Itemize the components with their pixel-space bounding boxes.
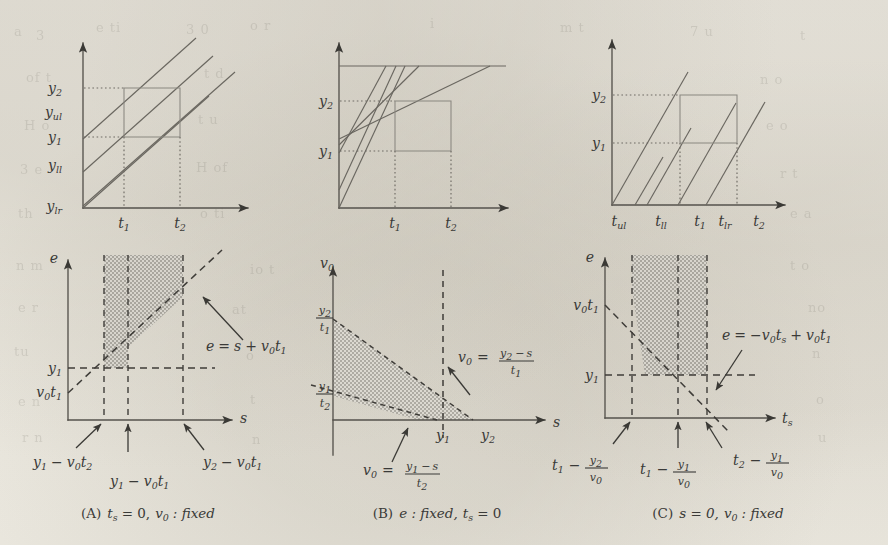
- top-middle-y-ticks: y2 y1: [318, 93, 333, 161]
- x-annot-arrow-1-A: [76, 424, 101, 448]
- panel-top-middle: y2 y1 t1 t2: [318, 43, 508, 233]
- x-annot-arrow-3-C: [706, 422, 722, 448]
- svg-text:y1: y1: [318, 380, 331, 395]
- top-middle-x-ticks: t1 t2: [389, 215, 457, 233]
- svg-text:v0: v0: [678, 475, 690, 490]
- tick-y1-C: y1: [584, 367, 599, 385]
- svg-text:t1−: t1−: [552, 457, 580, 475]
- svg-text:v0: v0: [590, 471, 602, 486]
- callout-arrow-lower-B: [392, 428, 408, 462]
- svg-text:t2: t2: [417, 477, 427, 492]
- tick-v0t1-C: v0t1: [573, 297, 599, 315]
- caption-A: (A)ts= 0,v0: fixed: [81, 505, 215, 523]
- tick-y1-B: y1: [435, 427, 450, 445]
- tick-tll: tll: [655, 213, 667, 231]
- equation-upper-B: v0= y2−s t1: [458, 347, 534, 379]
- bottom-left-x-axis-label: s: [240, 410, 247, 426]
- tick-y2: y2: [318, 93, 333, 111]
- tick-y1-over-t2-B: y1 t2: [316, 380, 333, 412]
- tick-tlr: tlr: [718, 213, 733, 231]
- top-right-guides: [613, 95, 737, 205]
- bottom-left-y-axis-label: e: [50, 250, 58, 266]
- svg-text:y1: y1: [770, 449, 783, 464]
- caption-C: (C)s = 0,v0: fixed: [652, 505, 784, 523]
- x-annot-arrow-3-A: [184, 424, 204, 450]
- svg-text:v0=: v0=: [363, 462, 394, 480]
- tick-y1: y1: [591, 135, 606, 153]
- tick-t1: t1: [389, 215, 401, 233]
- tick-ylr: ylr: [45, 198, 63, 216]
- panel-top-left: y2 yul y1 yll ylr t1 t2: [44, 38, 248, 233]
- svg-text:y1: y1: [677, 458, 690, 473]
- svg-text:t1: t1: [511, 364, 521, 379]
- svg-text:y2−s: y2−s: [499, 347, 532, 362]
- top-left-guides: [84, 88, 180, 208]
- top-right-y-ticks: y2 y1: [591, 87, 606, 153]
- tick-t1: t1: [694, 213, 706, 231]
- tick-yul: yul: [44, 104, 62, 122]
- svg-text:t2−: t2−: [733, 452, 761, 470]
- equation-C: e=−v0ts+v0t1: [722, 327, 832, 345]
- tick-t2: t2: [445, 215, 457, 233]
- bottom-middle-x-axis-label: s: [553, 414, 560, 430]
- x-annot-2-C: t1− y1 v0: [640, 458, 696, 490]
- top-left-ray-family: [83, 38, 235, 208]
- panel-bottom-left: e s y1 v0t1 e=s+v0t1 y1−v0t2 y1−v0t1: [32, 250, 287, 523]
- svg-text:v0: v0: [771, 466, 783, 481]
- top-middle-ray-fan: [339, 66, 490, 208]
- top-left-x-ticks: t1 t2: [118, 215, 186, 233]
- panel-top-right: y2 y1 tul tll t1 tlr t2: [591, 40, 785, 231]
- feasible-region-A-fill: [104, 255, 183, 368]
- svg-text:t1−: t1−: [640, 461, 668, 479]
- svg-text:y1−s: y1−s: [405, 460, 438, 475]
- panel-bottom-middle: v0 s y2 t1 y1 t2: [311, 255, 560, 523]
- x-annot-2-A: y1−v0t1: [109, 473, 169, 491]
- callout-arrow-A: [203, 297, 243, 340]
- feasible-region-C-fill: [632, 255, 707, 375]
- tick-y2: y2: [47, 80, 62, 98]
- callout-arrow-C: [716, 350, 742, 390]
- svg-text:v0=: v0=: [458, 349, 489, 367]
- panel-bottom-right: e ts v0t1 y1 e=−v0ts+v0t1 t1−: [552, 249, 832, 523]
- tick-y1: y1: [318, 143, 333, 161]
- svg-text:t2: t2: [320, 397, 330, 412]
- tick-y1: y1: [47, 129, 62, 147]
- callout-arrow-upper-B: [448, 367, 470, 395]
- bottom-right-y-axis-label: e: [586, 249, 594, 265]
- tick-y2-B: y2: [480, 427, 495, 445]
- figure-canvas: y2 yul y1 yll ylr t1 t2: [0, 0, 888, 545]
- caption-B: (B)e : fixed,ts= 0: [373, 505, 502, 523]
- x-annot-3-A: y2−v0t1: [202, 454, 262, 472]
- x-annot-3-C: t2− y1 v0: [733, 449, 789, 481]
- tick-t1: t1: [118, 215, 130, 233]
- x-annot-1-C: t1− y2 v0: [552, 454, 608, 486]
- tick-y2-over-t1-B: y2 t1: [316, 304, 333, 336]
- svg-text:t1: t1: [320, 321, 330, 336]
- equation-A: e=s+v0t1: [206, 338, 287, 356]
- tick-tul: tul: [612, 213, 627, 231]
- top-right-x-ticks: tul tll t1 tlr t2: [612, 213, 765, 231]
- tick-t2: t2: [753, 213, 765, 231]
- svg-text:y2: y2: [589, 454, 602, 469]
- tick-v0t1-A: v0t1: [36, 384, 62, 402]
- equation-lower-B: v0= y1−s t2: [363, 460, 440, 492]
- x-annot-arrow-1-C: [613, 422, 630, 444]
- x-annot-1-A: y1−v0t2: [32, 454, 92, 472]
- tick-y1-A: y1: [47, 360, 62, 378]
- top-right-ray-family: [612, 72, 765, 205]
- top-right-box: [680, 95, 737, 143]
- tick-yll: yll: [47, 157, 62, 175]
- tick-y2: y2: [591, 87, 606, 105]
- tick-t2: t2: [174, 215, 186, 233]
- top-left-y-ticks: y2 yul y1 yll ylr: [44, 80, 64, 216]
- bottom-middle-y-axis-label: v0: [320, 255, 334, 273]
- bottom-right-x-axis-label: ts: [782, 410, 793, 428]
- svg-text:y2: y2: [318, 304, 331, 319]
